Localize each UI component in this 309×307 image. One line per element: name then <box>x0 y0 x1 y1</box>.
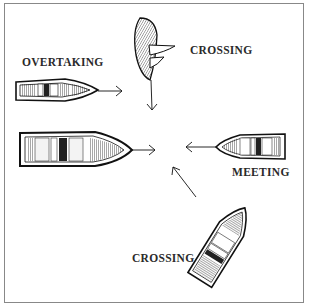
label-meeting: MEETING <box>232 166 290 178</box>
overtaking-arrow-large <box>132 145 155 155</box>
meeting-boat <box>216 134 285 159</box>
overtaking-boat-large <box>20 132 132 166</box>
overtaking-arrow-small <box>98 86 122 96</box>
label-crossing-bottom: CROSSING <box>132 252 194 264</box>
crossing-boat-bottom <box>188 200 257 287</box>
crossing-arrow-bottom <box>172 167 196 197</box>
meeting-arrow <box>186 142 216 152</box>
label-crossing-top: CROSSING <box>190 44 252 56</box>
crossing-arrow-top <box>147 80 157 110</box>
label-overtaking: OVERTAKING <box>22 56 104 68</box>
overtaking-boat-small <box>16 79 98 101</box>
crossing-sailboat <box>135 18 175 80</box>
